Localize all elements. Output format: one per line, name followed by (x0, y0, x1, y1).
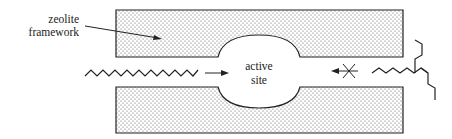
active-site-label-1: active (245, 60, 272, 72)
framework-upper (116, 10, 403, 57)
active-site-label-2: site (251, 74, 267, 86)
zeolite-diagram: zeolite framework active site (0, 0, 452, 139)
framework-lower (116, 87, 403, 133)
framework-label-2: framework (29, 26, 80, 38)
blocked-arrowhead-icon (331, 68, 339, 74)
branched-alkane-lower-branch (421, 68, 435, 100)
entry-arrowhead-icon (221, 70, 229, 76)
linear-alkane-molecule (85, 70, 198, 76)
framework-label-1: zeolite (48, 13, 79, 25)
branched-alkane-main (372, 68, 428, 73)
